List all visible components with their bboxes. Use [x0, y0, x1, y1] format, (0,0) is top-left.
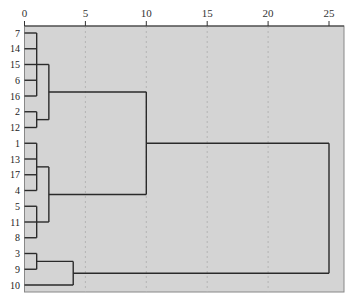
- leaf-label: 1: [15, 138, 20, 149]
- x-tick-label: 25: [324, 7, 336, 19]
- dendrogram-chart: 05101520257141561621211317451183910: [0, 0, 354, 305]
- leaf-label: 5: [15, 201, 20, 212]
- leaf-label: 16: [10, 91, 20, 102]
- x-tick-label: 10: [141, 7, 153, 19]
- leaf-label: 11: [10, 217, 20, 228]
- x-tick-label: 15: [202, 7, 214, 19]
- leaf-label: 15: [10, 59, 20, 70]
- leaf-label: 9: [15, 264, 20, 275]
- leaf-label: 2: [15, 106, 20, 117]
- plot-area: [25, 26, 345, 292]
- leaf-label: 14: [10, 43, 20, 54]
- leaf-label: 13: [10, 154, 20, 165]
- leaf-label: 3: [15, 248, 20, 259]
- x-tick-label: 20: [263, 7, 275, 19]
- leaf-label: 17: [10, 169, 20, 180]
- x-tick-label: 0: [22, 7, 28, 19]
- leaf-label: 6: [15, 75, 20, 86]
- leaf-label: 10: [10, 280, 20, 291]
- leaf-label: 7: [15, 28, 20, 39]
- leaf-label: 4: [15, 185, 20, 196]
- leaf-label: 8: [15, 232, 20, 243]
- x-tick-label: 5: [83, 7, 89, 19]
- leaf-label: 12: [10, 122, 20, 133]
